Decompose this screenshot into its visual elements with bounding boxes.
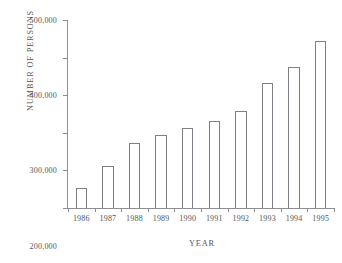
x-axis-tick <box>307 208 308 212</box>
bar <box>262 83 274 208</box>
bar <box>288 67 300 208</box>
x-axis-tick-label: 1994 <box>286 214 303 223</box>
x-axis-tick-label: 1989 <box>153 214 170 223</box>
x-axis-tick-label: 1992 <box>232 214 249 223</box>
y-axis-tick-label: 400,000 <box>30 91 57 100</box>
x-axis-tick-label: 1995 <box>312 214 329 223</box>
bar <box>182 128 194 208</box>
y-axis-tick: 400,000 <box>63 58 68 59</box>
x-axis-tick-label: 1993 <box>259 214 276 223</box>
x-axis-tick <box>68 208 69 212</box>
y-axis-tick-label: 200,000 <box>30 241 57 250</box>
bar <box>76 188 88 208</box>
x-axis-tick <box>334 208 335 212</box>
x-axis-tick <box>148 208 149 212</box>
y-axis-tick: 200,000 <box>63 133 68 134</box>
x-axis-tick <box>174 208 175 212</box>
bar-chart: NUMBER OF PERSONS 0100,000200,000300,000… <box>0 0 342 263</box>
bar <box>315 41 327 208</box>
bar <box>209 121 221 208</box>
x-axis-tick <box>281 208 282 212</box>
y-axis-tick: 300,000 <box>63 95 68 96</box>
y-axis-tick-label: 500,000 <box>30 16 57 25</box>
x-axis-tick-label: 1986 <box>73 214 90 223</box>
bar <box>235 111 247 208</box>
bar <box>102 166 114 208</box>
y-axis-tick: 100,000 <box>63 170 68 171</box>
x-axis-tick-label: 1990 <box>179 214 196 223</box>
x-axis-tick <box>121 208 122 212</box>
x-axis-tick <box>201 208 202 212</box>
y-axis-tick: 500,000 <box>63 20 68 21</box>
y-axis-line <box>67 20 68 209</box>
x-axis-tick-label: 1988 <box>126 214 143 223</box>
bar <box>155 135 167 208</box>
bar <box>129 143 141 208</box>
y-axis-tick-label: 300,000 <box>30 166 57 175</box>
x-axis-tick <box>95 208 96 212</box>
x-axis-title: YEAR <box>64 239 340 248</box>
x-axis-tick-label: 1991 <box>206 214 223 223</box>
x-axis-tick <box>228 208 229 212</box>
x-axis-tick <box>254 208 255 212</box>
x-axis-tick-label: 1987 <box>99 214 116 223</box>
plot-area: 0100,000200,000300,000400,000500,000 198… <box>68 20 334 208</box>
